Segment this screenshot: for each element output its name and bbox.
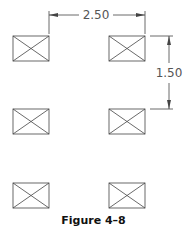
figure-caption: Figure 4–8	[0, 214, 187, 227]
drawing-canvas: 2.50 1.50	[0, 0, 187, 230]
arrowhead-left	[49, 13, 58, 17]
crossed-rectangle-symbol	[109, 109, 145, 134]
crossed-rectangle-symbol	[109, 183, 145, 208]
crossed-rectangle-symbol	[13, 109, 49, 134]
horizontal-dimension-text: 2.50	[83, 8, 110, 22]
arrowhead-bottom	[167, 100, 171, 109]
arrowhead-top	[167, 36, 171, 45]
crossed-rectangle-symbol	[13, 36, 49, 61]
crossed-rectangle-symbol	[109, 36, 145, 61]
crossed-rectangle-symbol	[13, 183, 49, 208]
arrowhead-right	[136, 13, 145, 17]
vertical-dimension-text: 1.50	[156, 66, 183, 80]
